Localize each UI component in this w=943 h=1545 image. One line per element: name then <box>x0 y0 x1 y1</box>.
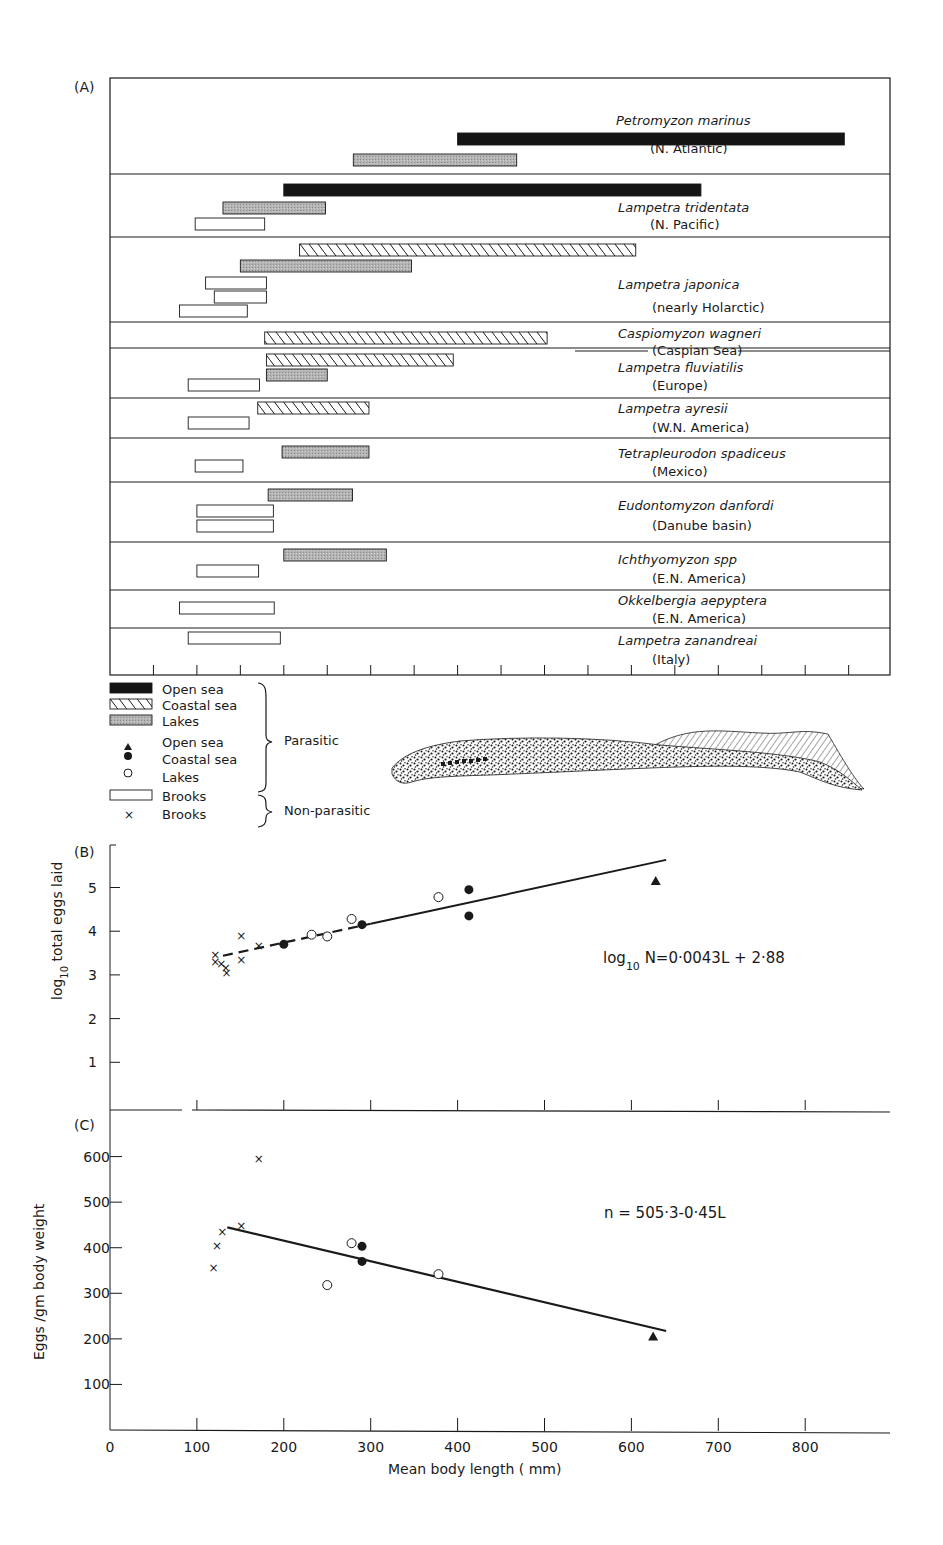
svg-text:×: × <box>124 808 134 822</box>
panel-c-regression-line <box>227 1227 666 1331</box>
filled-circle-marker <box>464 911 473 920</box>
species-row: Petromyzon marinus(N. Atlantic) <box>353 113 844 166</box>
range-bar-brooks <box>188 417 249 429</box>
species-name: Caspiomyzon wagneri <box>618 326 762 341</box>
legend-label: Brooks <box>162 789 206 804</box>
range-bar-lakes <box>284 549 387 561</box>
species-row: Eudontomyzon danfordi(Danube basin) <box>110 482 890 533</box>
species-name: Lampetra zanandreai <box>618 633 757 648</box>
svg-text:0: 0 <box>106 1439 115 1455</box>
cross-marker: × <box>212 1239 222 1253</box>
cross-marker: × <box>236 953 246 967</box>
panel-c-label: (C) <box>74 1117 95 1133</box>
species-row: Ichthyomyzon spp(E.N. America) <box>110 542 890 586</box>
panel-c-eggs-per-gram-scatter: (C) 100200300400500600 01002003004005006… <box>31 1110 890 1477</box>
species-name: Lampetra fluviatilis <box>618 360 744 375</box>
range-bar-brooks <box>180 305 248 317</box>
panel-a-frame <box>110 78 890 675</box>
svg-text:400: 400 <box>444 1439 471 1455</box>
legend-item-triangle: Open sea <box>124 735 224 750</box>
species-region: (N. Atlantic) <box>650 141 728 156</box>
species-region: (N. Pacific) <box>650 217 719 232</box>
cross-marker: × <box>217 1225 227 1239</box>
species-name: Lampetra ayresii <box>618 401 728 416</box>
range-bar-lakes <box>268 489 352 501</box>
species-region: (Italy) <box>652 652 690 667</box>
species-region: (Caspian Sea) <box>652 343 742 358</box>
legend-item-bar-lakes: Lakes <box>110 714 199 729</box>
panel-c-y-ticks: 100200300400500600 <box>83 1149 122 1393</box>
svg-text:700: 700 <box>705 1439 732 1455</box>
filled-circle-marker <box>464 885 473 894</box>
species-name: Eudontomyzon danfordi <box>618 498 774 513</box>
open-circle-marker <box>323 1281 332 1290</box>
species-region: (Mexico) <box>652 464 708 479</box>
legend: Open seaCoastal seaLakesOpen seaCoastal … <box>110 682 370 827</box>
species-row: Lampetra tridentata(N. Pacific) <box>110 174 890 232</box>
species-region: (Danube basin) <box>652 518 752 533</box>
svg-text:3: 3 <box>88 967 97 983</box>
legend-item-open-circle: Lakes <box>124 769 199 785</box>
species-row: Lampetra japonica(nearly Holarctic) <box>110 237 890 317</box>
species-region: (nearly Holarctic) <box>652 300 765 315</box>
cross-marker: × <box>222 966 232 980</box>
legend-label: Coastal sea <box>162 698 237 713</box>
range-bar-lakes <box>240 260 411 272</box>
panel-c-equation: n = 505·3-0·45L <box>604 1204 726 1222</box>
legend-label: Lakes <box>162 770 199 785</box>
svg-text:500: 500 <box>83 1194 110 1210</box>
species-region: (W.N. America) <box>652 420 749 435</box>
svg-text:600: 600 <box>83 1149 110 1165</box>
brace-parasitic-icon <box>258 683 272 792</box>
range-bar-coastal-sea <box>265 332 547 344</box>
cross-marker: × <box>209 1261 219 1275</box>
panel-c-x-ticks: 0100200300400500600700800 <box>106 1418 819 1455</box>
species-region: (E.N. America) <box>652 611 746 626</box>
panel-b-x-ticks <box>197 1100 805 1110</box>
panel-c-x-axis-label: Mean body length ( mm) <box>388 1461 561 1477</box>
svg-text:100: 100 <box>184 1439 211 1455</box>
species-region: (Europe) <box>652 378 708 393</box>
svg-text:400: 400 <box>83 1240 110 1256</box>
cross-marker: × <box>254 939 264 953</box>
panel-b-data-points: ×××××××× <box>210 876 660 980</box>
panel-a-x-ticks <box>153 665 848 675</box>
svg-text:800: 800 <box>792 1439 819 1455</box>
species-name: Lampetra tridentata <box>618 200 749 215</box>
species-row: Lampetra fluviatilis(Europe) <box>110 348 890 393</box>
species-row: Caspiomyzon wagneri(Caspian Sea) <box>110 322 890 358</box>
legend-label: Coastal sea <box>162 752 237 767</box>
species-row: Tetrapleurodon spadiceus(Mexico) <box>110 438 890 479</box>
triangle-marker <box>648 1332 658 1341</box>
species-name: Tetrapleurodon spadiceus <box>618 446 786 461</box>
species-name: Ichthyomyzon spp <box>618 552 737 567</box>
panel-c-x-axis <box>110 1430 890 1433</box>
legend-item-bar-brooks: Brooks <box>110 789 206 804</box>
triangle-marker <box>651 876 661 885</box>
open-circle-marker <box>347 1239 356 1248</box>
lamprey-illustration-icon <box>392 731 864 790</box>
cross-marker: × <box>254 1152 264 1166</box>
panel-c-y-axis-label: Eggs /gm body weight <box>31 1203 47 1360</box>
range-bar-brooks <box>195 460 243 472</box>
panel-b-equation: log10 N=0·0043L + 2·88 <box>603 949 785 973</box>
range-bar-brooks <box>197 520 273 532</box>
species-row: Lampetra ayresii(W.N. America) <box>110 398 890 435</box>
cross-marker: × <box>236 929 246 943</box>
svg-text:500: 500 <box>531 1439 558 1455</box>
species-row: Okkelbergia aepyptera(E.N. America) <box>110 590 890 626</box>
legend-label: Open sea <box>162 735 224 750</box>
range-bar-brooks <box>197 505 273 517</box>
brace-non-parasitic-icon <box>258 795 272 827</box>
species-row: Lampetra zanandreai(Italy) <box>110 628 890 667</box>
svg-text:5: 5 <box>88 880 97 896</box>
range-bar-open-sea <box>284 184 701 196</box>
legend-item-bar-coastal-sea: Coastal sea <box>110 698 237 713</box>
open-circle-marker <box>434 893 443 902</box>
range-bar-brooks <box>195 218 265 230</box>
open-circle-marker <box>434 1270 443 1279</box>
cross-marker: × <box>236 1219 246 1233</box>
legend-item-bar-open-sea: Open sea <box>110 682 224 697</box>
range-bar-brooks <box>206 277 267 289</box>
svg-text:300: 300 <box>357 1439 384 1455</box>
